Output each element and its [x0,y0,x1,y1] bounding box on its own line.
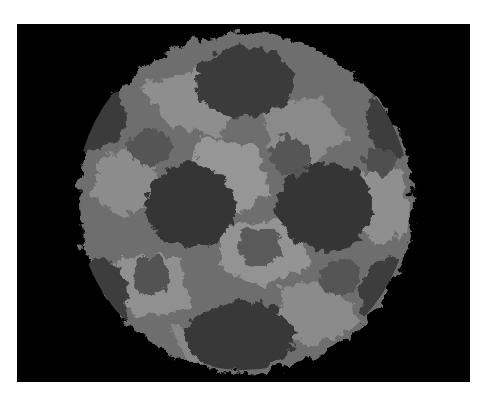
image-panel [17,24,470,382]
virus-capsid-render [17,24,470,382]
